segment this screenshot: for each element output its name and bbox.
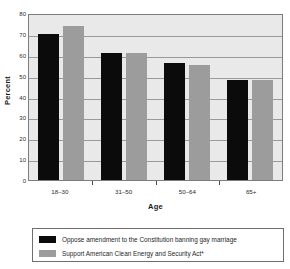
y-axis-tick-label: 60 (19, 53, 26, 59)
bars-layer (29, 15, 282, 180)
bar (189, 65, 210, 180)
y-axis-tick-label: 30 (19, 115, 26, 121)
legend-swatch-series-1 (39, 250, 56, 257)
y-axis-tick-label: 70 (19, 32, 26, 38)
bar-group (156, 15, 219, 180)
bar (227, 80, 248, 180)
y-axis-tick-label: 50 (19, 74, 26, 80)
x-axis-title: Age (28, 202, 283, 211)
bar-group (29, 15, 92, 180)
plot-area (28, 14, 283, 181)
bar-group (92, 15, 155, 180)
x-axis-tick-label: 18–30 (51, 188, 68, 195)
x-axis-tick (219, 181, 220, 185)
legend: Oppose amendment to the Constitution ban… (32, 228, 284, 262)
bar (38, 34, 59, 180)
x-axis-tick-label: 65+ (246, 188, 257, 195)
bar-chart-figure: Percent 01020304050607080 18–3031–5050–6… (0, 0, 290, 269)
x-axis-ticks (28, 181, 283, 185)
bar (164, 63, 185, 180)
bar (63, 26, 84, 180)
legend-swatch-series-0 (39, 236, 56, 243)
y-axis-tick-label: 10 (19, 157, 26, 163)
bar (126, 53, 147, 180)
bar-group (219, 15, 282, 180)
legend-label-series-0: Oppose amendment to the Constitution ban… (62, 236, 237, 243)
x-axis-tick-label: 31–50 (115, 188, 132, 195)
y-axis-tick-label: 0 (23, 178, 26, 184)
legend-item: Oppose amendment to the Constitution ban… (33, 233, 283, 245)
x-axis-tick (156, 181, 157, 185)
y-axis-tick-labels: 01020304050607080 (12, 14, 26, 181)
y-axis-tick-label: 40 (19, 95, 26, 101)
y-axis-tick-label: 20 (19, 136, 26, 142)
y-axis-title-label: Percent (3, 76, 12, 105)
legend-label-series-1: Support American Clean Energy and Securi… (62, 250, 204, 257)
x-axis-tick-labels: 18–3031–5050–6465+ (28, 188, 283, 200)
legend-item: Support American Clean Energy and Securi… (33, 247, 283, 259)
bar (101, 53, 122, 180)
x-axis-tick (92, 181, 93, 185)
bar (252, 80, 273, 180)
x-axis-tick-label: 50–64 (179, 188, 196, 195)
y-axis-tick-label: 80 (19, 11, 26, 17)
